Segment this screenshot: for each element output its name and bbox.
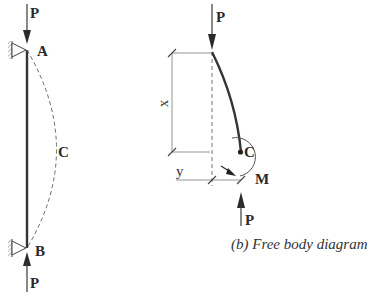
- support-label-b: B: [35, 244, 45, 259]
- fbd-top-load-arrow-icon: [208, 4, 216, 50]
- figure-caption: (b) Free body diagram: [231, 237, 368, 252]
- fbd-load-label-bottom: P: [245, 213, 254, 228]
- support-label-a: A: [37, 44, 48, 59]
- load-label-bottom: P: [30, 276, 39, 291]
- free-body-diagram: [168, 4, 255, 226]
- column-segment: [212, 52, 241, 152]
- buckling-diagram: P A C B P P x y C M P (b) Free body diag…: [0, 0, 371, 296]
- section-point-c: [238, 149, 243, 154]
- fbd-bottom-load-arrow-icon: [237, 192, 245, 226]
- left-column-figure: [8, 4, 57, 292]
- dimension-x-label: x: [156, 100, 171, 108]
- deflected-shape: [27, 50, 57, 248]
- dimension-x: [168, 49, 212, 156]
- midpoint-label-c: C: [58, 145, 69, 160]
- pin-support-b-icon: [8, 239, 26, 257]
- moment-label-m: M: [255, 172, 269, 187]
- pin-support-a-icon: [8, 41, 26, 59]
- load-label-top: P: [30, 6, 39, 21]
- dimension-y: [176, 176, 245, 184]
- fbd-load-label-top: P: [216, 10, 225, 25]
- dimension-y-label: y: [176, 164, 184, 179]
- section-label-c: C: [244, 145, 255, 160]
